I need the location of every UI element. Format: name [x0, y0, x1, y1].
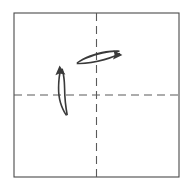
diagram-canvas	[0, 0, 188, 182]
origami-diagram: Origami fold step: square sheet with two…	[0, 0, 188, 182]
